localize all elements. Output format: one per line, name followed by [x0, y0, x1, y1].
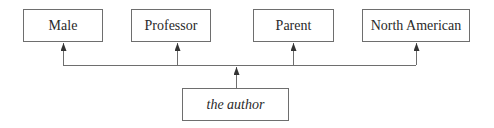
- node-the-author: the author: [182, 88, 289, 121]
- node-label: the author: [207, 97, 265, 113]
- node-parent: Parent: [253, 9, 334, 42]
- node-label: Male: [49, 18, 78, 34]
- node-label: Professor: [145, 18, 198, 34]
- node-north-american: North American: [362, 9, 470, 42]
- node-label: North American: [371, 18, 462, 34]
- node-male: Male: [23, 9, 103, 42]
- node-label: Parent: [276, 18, 312, 34]
- node-professor: Professor: [131, 9, 211, 42]
